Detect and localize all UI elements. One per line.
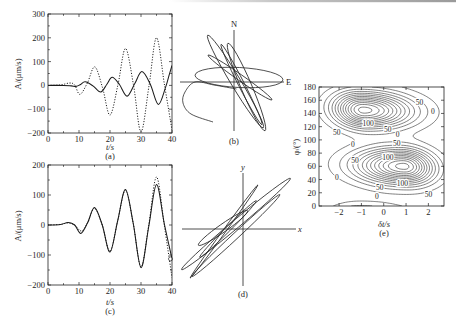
panel-e-contour-map: 5001005005005050100010050050−2−101202040… — [291, 82, 444, 238]
plot-area-a: 010203040−200−1000100200300 — [27, 9, 176, 144]
plot-area-c: 010203040−200−1000100200 — [27, 160, 176, 296]
x-tick-label: 40 — [168, 134, 177, 144]
panel-c-waveform: 010203040−200−1000100200 A/(μm/s) t/s (c… — [13, 160, 176, 316]
y-tick-label: 0 — [41, 80, 45, 90]
x-axis-label-d: x — [297, 224, 302, 234]
y-tick-label: 60 — [308, 161, 317, 171]
scan-edge-strip — [170, 0, 456, 2]
plot-frame — [48, 165, 172, 285]
panel-label-b: (b) — [229, 136, 239, 146]
y-tick-label: −200 — [27, 128, 45, 138]
contour-value-label: 50 — [384, 125, 392, 134]
y-tick-label: 200 — [32, 33, 45, 43]
y-axis-label-a: A/(μm/s) — [13, 58, 23, 89]
plot-area-d — [179, 173, 296, 286]
motion-tail — [183, 82, 237, 122]
panel-label-c: (c) — [105, 306, 115, 316]
y-tick-label: 20 — [308, 188, 317, 198]
contour-value-label: 100 — [397, 179, 409, 188]
contour-level-line — [324, 87, 444, 206]
series-solid-line — [48, 65, 172, 104]
contour-value-label: 50 — [376, 183, 384, 192]
x-tick-label: 0 — [46, 286, 50, 296]
north-axis-label: N — [231, 19, 237, 29]
series-dotted-line — [48, 38, 172, 132]
motion-loop — [203, 33, 267, 131]
y-tick-label: 0 — [41, 220, 45, 230]
contour-value-label: 50 — [333, 128, 341, 137]
contour-value-label: 0 — [431, 107, 435, 116]
plot-area-e: 5001005005005050100010050050−2−101202040… — [303, 82, 444, 217]
contour-level-line — [335, 93, 432, 183]
y-tick-label: 300 — [32, 9, 45, 19]
x-tick-label: 30 — [137, 134, 146, 144]
panel-label-e: (e) — [379, 228, 389, 238]
y-tick-label: −100 — [27, 250, 45, 260]
contour-value-label: 0 — [351, 140, 355, 149]
contour-value-label: 50 — [425, 190, 433, 199]
x-tick-label: 10 — [75, 286, 84, 296]
x-tick-label: 40 — [168, 286, 177, 296]
x-tick-label: 1 — [404, 207, 408, 217]
contour-value-label: 0 — [335, 173, 339, 182]
series-group — [48, 38, 172, 132]
east-axis-label: E — [286, 77, 291, 87]
y-axis-label-e: φ/(°) — [291, 139, 301, 155]
y-tick-label: 140 — [303, 108, 316, 118]
x-tick-label: −2 — [335, 207, 344, 217]
x-tick-label: 0 — [382, 207, 386, 217]
y-tick-label: −200 — [27, 280, 45, 290]
figure: 010203040−200−1000100200300 A/(μm/s) t/s… — [0, 0, 456, 327]
y-tick-label: 100 — [303, 135, 316, 145]
motion-loop — [190, 192, 282, 278]
y-tick-label: 180 — [303, 82, 316, 92]
contour-value-label: 100 — [362, 119, 374, 128]
x-tick-label: −1 — [357, 207, 366, 217]
contour-level-line — [338, 95, 430, 182]
panel-label-a: (a) — [105, 151, 115, 161]
x-tick-label: 30 — [137, 286, 146, 296]
panel-b-particle-motion: N E (b) — [180, 19, 291, 146]
x-tick-label: 10 — [75, 134, 84, 144]
y-tick-label: 120 — [303, 122, 316, 132]
y-tick-label: 0 — [312, 201, 316, 211]
contour-value-label: 50 — [351, 156, 359, 165]
panel-a-waveform: 010203040−200−1000100200300 A/(μm/s) t/s… — [13, 9, 176, 161]
contour-value-label: 50 — [416, 98, 424, 107]
motion-loop — [189, 184, 259, 279]
contour-value-label: 0 — [375, 192, 379, 201]
y-tick-label: −100 — [27, 104, 45, 114]
panel-label-d: (d) — [238, 289, 248, 299]
y-tick-label: 40 — [308, 175, 317, 185]
y-tick-label: 100 — [32, 57, 45, 67]
contour-level-line — [351, 103, 417, 174]
y-axis-label-c: A/(μm/s) — [13, 210, 23, 241]
y-tick-label: 200 — [32, 160, 45, 170]
contour-value-label: 50 — [393, 139, 401, 148]
series-dotted-line — [48, 177, 172, 278]
y-tick-label: 80 — [308, 148, 317, 158]
contour-level-line — [346, 99, 422, 177]
panel-d-particle-motion: y x (d) — [179, 162, 302, 299]
contour-level-line — [343, 98, 424, 179]
y-axis-label-d: y — [240, 162, 245, 172]
x-tick-label: 20 — [106, 286, 115, 296]
contour-value-label: 100 — [382, 153, 394, 162]
x-tick-label: 2 — [426, 207, 430, 217]
y-tick-label: 160 — [303, 95, 316, 105]
series-group — [48, 177, 172, 278]
plot-area-b — [180, 30, 284, 133]
y-tick-label: 100 — [32, 190, 45, 200]
series-solid-line — [48, 184, 172, 267]
x-tick-label: 0 — [46, 134, 50, 144]
